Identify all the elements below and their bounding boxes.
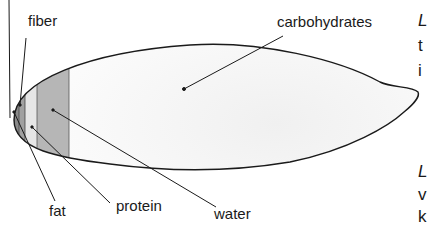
label-fat: fat bbox=[49, 203, 66, 218]
side-text-bottom-2: v bbox=[418, 186, 427, 203]
label-water: water bbox=[214, 206, 251, 221]
side-text-top-3: i bbox=[418, 62, 422, 79]
band-protein bbox=[25, 0, 37, 224]
band-fat bbox=[19, 0, 25, 224]
leader-line-tip bbox=[9, 0, 10, 118]
side-text-top-2: t bbox=[418, 37, 423, 54]
side-text-bottom-3: k bbox=[418, 208, 427, 225]
band-tip bbox=[0, 0, 14, 224]
band-water bbox=[37, 0, 69, 224]
side-text-top-1: L bbox=[418, 12, 427, 29]
label-protein: protein bbox=[116, 198, 162, 213]
label-carbohydrates: carbohydrates bbox=[277, 14, 372, 29]
label-fiber: fiber bbox=[28, 13, 57, 28]
side-text-bottom-1: L bbox=[418, 163, 427, 180]
